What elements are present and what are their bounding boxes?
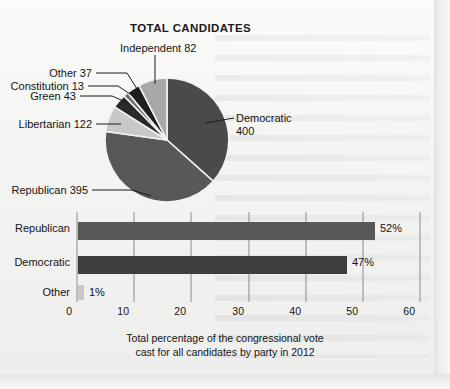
bar-category-democratic: Democratic [8,256,70,268]
bar-category-republican: Republican [8,222,70,234]
bar-chart-caption: Total percentage of the congressional vo… [75,331,375,359]
bar-other[interactable] [78,285,84,300]
x-tick-10: 10 [103,305,129,317]
bar-value-other: 1% [89,286,105,298]
x-tick-20: 20 [160,305,186,317]
bars [78,222,375,300]
x-tick-0: 0 [46,305,72,317]
bar-value-democratic: 47% [352,256,374,268]
x-tick-60: 60 [389,305,415,317]
pie-label-libertarian: Libertarian 122 [0,118,92,131]
pie-label-constitution: Constitution 13 [0,80,84,93]
pie-label-other: Other 37 [0,67,92,80]
x-tick-30: 30 [218,305,244,317]
pie-label-republican: Republican 395 [0,184,88,197]
caption-line-2: cast for all candidates by party in 2012 [75,345,375,359]
x-tick-50: 50 [332,305,358,317]
pie-wedges [105,78,229,202]
bar-republican[interactable] [78,222,375,240]
bar-category-other: Other [8,286,70,298]
caption-line-1: Total percentage of the congressional vo… [75,331,375,345]
bar-democratic[interactable] [78,256,347,274]
pie-label-democratic: Democratic [236,112,292,125]
x-tick-40: 40 [275,305,301,317]
pie-label-democratic-value: 400 [236,125,254,138]
pie-label-independent: Independent 82 [120,42,196,55]
figure-page: TOTAL CANDIDATES [0,0,450,389]
bar-value-republican: 52% [380,222,402,234]
pie-chart [0,0,450,210]
page-bottom-edge [0,374,450,389]
